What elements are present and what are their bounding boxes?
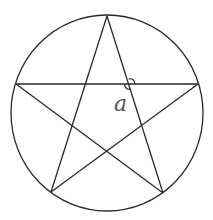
circumscribed-circle [11, 15, 203, 211]
star-edge-left-to-bottom-right [16, 84, 163, 193]
star-edge-top-to-bottom-left [51, 16, 107, 192]
pentagram-diagram [0, 0, 213, 220]
angle-marker-arc-upper [129, 79, 136, 84]
angle-label: a [114, 93, 127, 115]
